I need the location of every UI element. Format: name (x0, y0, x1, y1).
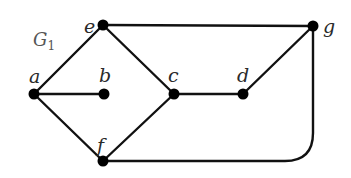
vertex-d (238, 89, 249, 100)
graph-title-main: G (33, 29, 47, 50)
edge-d-g (243, 26, 313, 94)
vertex-label-a: a (29, 65, 40, 87)
vertex-label-e: e (84, 15, 95, 37)
vertex-label-f: f (95, 134, 107, 156)
edge-a-f (34, 94, 103, 161)
vertex-label-g: g (323, 15, 335, 37)
vertex-label-b: b (99, 64, 111, 86)
edge-e-c (103, 25, 174, 94)
vertex-f (98, 156, 109, 167)
vertex-e (98, 20, 109, 31)
vertex-a (29, 89, 40, 100)
graph-title-subscript: 1 (47, 39, 55, 53)
graph-diagram: abcdefg G1 (0, 0, 351, 178)
edge-e-g (103, 25, 313, 26)
vertex-label-c: c (168, 64, 179, 86)
vertex-g (308, 21, 319, 32)
graph-title: G1 (33, 29, 55, 53)
vertex-label-d: d (237, 64, 249, 86)
vertex-c (169, 89, 180, 100)
vertex-b (99, 89, 110, 100)
edge-c-f (103, 94, 174, 161)
